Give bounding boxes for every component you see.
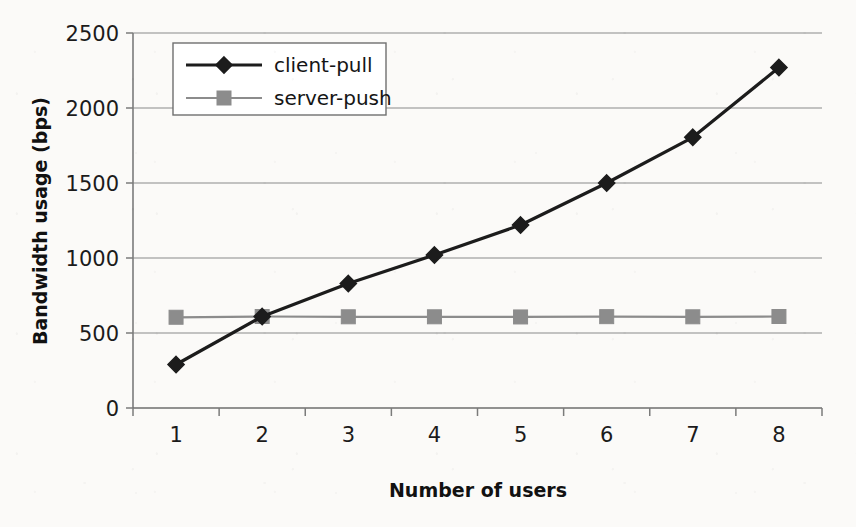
legend-label: client-pull (274, 53, 373, 77)
y-axis-title: Bandwidth usage (bps) (29, 97, 51, 345)
x-axis-ticks (133, 408, 822, 416)
data-point-marker (169, 310, 183, 324)
data-point-marker (340, 276, 356, 292)
x-tick-label: 5 (514, 423, 527, 447)
x-tick-label: 6 (600, 423, 613, 447)
y-axis-tick-labels: 05001000150020002500 (66, 22, 119, 421)
data-point-marker (514, 310, 528, 324)
data-point-marker (600, 310, 614, 324)
data-point-marker (341, 310, 355, 324)
data-point-marker (772, 310, 786, 324)
data-point-marker (427, 310, 441, 324)
chart-canvas: 05001000150020002500 12345678 Bandwidth … (0, 0, 856, 527)
data-point-marker (513, 217, 529, 233)
y-tick-label: 1500 (66, 172, 119, 196)
legend-label: server-push (274, 86, 392, 110)
square-marker-icon (217, 91, 231, 105)
data-point-marker (426, 247, 442, 263)
x-tick-label: 2 (256, 423, 269, 447)
data-point-marker (168, 357, 184, 373)
data-point-marker (599, 175, 615, 191)
bandwidth-usage-line-chart: 05001000150020002500 12345678 Bandwidth … (0, 0, 856, 527)
chart-legend: client-pullserver-push (173, 43, 392, 115)
data-point-marker (686, 310, 700, 324)
y-tick-label: 0 (106, 397, 119, 421)
x-tick-label: 3 (342, 423, 355, 447)
x-axis-title: Number of users (389, 479, 567, 501)
x-tick-label: 8 (772, 423, 785, 447)
x-tick-label: 1 (169, 423, 182, 447)
y-tick-label: 2000 (66, 97, 119, 121)
y-tick-label: 500 (79, 322, 119, 346)
y-tick-label: 1000 (66, 247, 119, 271)
x-tick-label: 7 (686, 423, 699, 447)
x-tick-label: 4 (428, 423, 441, 447)
y-axis-ticks (126, 33, 133, 408)
y-tick-label: 2500 (66, 22, 119, 46)
x-axis-tick-labels: 12345678 (169, 423, 785, 447)
